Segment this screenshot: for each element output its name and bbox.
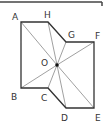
center-point-o xyxy=(55,63,59,67)
spoke-o-e xyxy=(57,65,94,108)
label-b: B xyxy=(11,92,17,102)
spoke-o-a xyxy=(21,22,57,65)
label-h: H xyxy=(44,10,51,20)
label-o: O xyxy=(41,58,48,68)
label-g: G xyxy=(68,30,75,40)
spoke-o-f xyxy=(57,42,94,65)
geometry-diagram: A H G F O B C D E xyxy=(0,0,111,128)
spoke-o-d xyxy=(57,65,66,108)
label-f: F xyxy=(95,31,100,41)
spoke-o-g xyxy=(57,42,66,65)
label-d: D xyxy=(61,113,68,123)
label-a: A xyxy=(12,12,19,22)
spoke-o-c xyxy=(48,65,57,88)
top-rule xyxy=(0,2,102,6)
label-c: C xyxy=(41,93,47,103)
label-e: E xyxy=(95,113,101,123)
spoke-o-h xyxy=(48,22,57,65)
spoke-o-b xyxy=(21,65,57,88)
